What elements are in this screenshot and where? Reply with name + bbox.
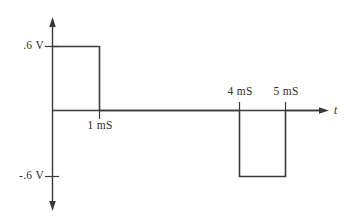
waveform-trace bbox=[53, 47, 321, 177]
time-tick-label-5ms: 5 mS bbox=[262, 86, 310, 98]
voltage-tick-label-negative: -.6 V bbox=[2, 170, 44, 182]
time-tick-label-4ms: 4 mS bbox=[216, 86, 264, 98]
time-axis-arrow-right-icon bbox=[319, 107, 329, 113]
waveform-figure: .6 V -.6 V 1 mS 4 mS 5 mS t bbox=[0, 0, 350, 223]
waveform-plot-canvas bbox=[0, 0, 350, 223]
voltage-tick-label-positive: .6 V bbox=[6, 40, 44, 52]
time-tick-label-1ms: 1 mS bbox=[76, 120, 124, 132]
voltage-axis-arrow-down-icon bbox=[49, 201, 56, 211]
voltage-axis-arrow-up-icon bbox=[49, 17, 56, 27]
time-axis-variable-label: t bbox=[334, 105, 337, 117]
